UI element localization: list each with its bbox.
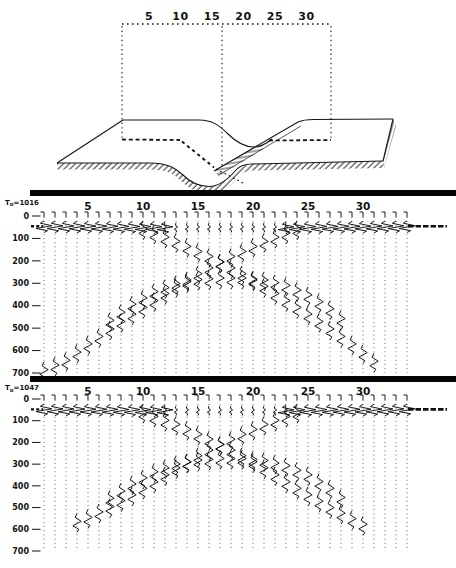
time-axis-label: 600	[12, 346, 29, 355]
wavelet-limb-dipping-right	[293, 299, 301, 318]
trace-top-tick	[382, 395, 386, 400]
trace-top-tick	[129, 395, 133, 400]
wavelet-trough-bottom-arch	[216, 451, 224, 470]
seismic-section-1047: To=1047510152025300100200300400500600700	[0, 382, 456, 568]
wavelet-flat-left	[80, 404, 96, 416]
ruler-label: 15	[204, 10, 220, 23]
interface-dashed-right	[269, 140, 331, 141]
ruler-label: 25	[267, 10, 283, 23]
trace-top-tick	[404, 212, 408, 217]
trace-top-tick	[63, 395, 67, 400]
wavelet-limb-dipping-left	[84, 509, 92, 528]
ruler-label: 10	[172, 10, 188, 23]
trace-top-tick	[96, 395, 100, 400]
trace-top-tick	[151, 212, 155, 217]
trace-top-tick	[371, 395, 375, 400]
wavelet-limb-dipping-right	[183, 238, 191, 257]
wavelet-flat-center	[174, 406, 177, 416]
wavelet-limb-dipping-left	[95, 328, 103, 347]
trace-top-tick	[305, 212, 309, 217]
ruler-label: 20	[235, 10, 251, 23]
trace-top-tick	[349, 395, 353, 400]
trace-top-tick	[206, 395, 210, 400]
trace-top-tick	[52, 395, 56, 400]
trace-top-tick	[327, 395, 331, 400]
trace-top-tick	[129, 212, 133, 217]
wavelet-flat-left	[47, 221, 63, 233]
wavelet-flat-left	[80, 221, 96, 233]
trace-top-tick	[338, 395, 342, 400]
trace-top-tick	[250, 212, 254, 217]
geophone-number-label: 30	[356, 200, 371, 212]
trace-top-tick	[338, 212, 342, 217]
wavelet-flat-left	[69, 404, 85, 416]
ruler-labels: 51015202530	[145, 10, 315, 23]
trace-top-tick	[52, 212, 56, 217]
trace-top-tick	[294, 395, 298, 400]
wavelet-flat-center	[218, 223, 221, 233]
trace-top-tick	[85, 212, 89, 217]
trace-top-tick	[173, 395, 177, 400]
wavelet-flat-center	[229, 406, 232, 416]
wavelet-flat-center	[251, 223, 254, 233]
wavelet-limb-dipping-right	[359, 516, 367, 535]
back-edge	[123, 120, 272, 147]
trace-top-tick	[107, 395, 111, 400]
time-axis-label: 500	[12, 503, 29, 512]
time-axis-label: 0	[23, 395, 29, 404]
wavelet-flat-center	[196, 406, 199, 416]
front-edge-hatch-band	[57, 161, 384, 190]
trace-top-tick	[184, 212, 188, 217]
trace-top-tick	[272, 395, 276, 400]
trace-top-tick	[349, 212, 353, 217]
wavelet-group	[31, 221, 447, 376]
trace-top-tick	[63, 212, 67, 217]
seismic-section-1016: To=1016510152025300100200300400500600700	[0, 196, 456, 376]
model-diagram: 51015202530	[0, 0, 456, 190]
time-axis-label: 500	[12, 324, 29, 333]
time-axis-label: 300	[12, 279, 29, 288]
trace-top-tick	[74, 395, 78, 400]
time-axis-label: 100	[12, 234, 29, 243]
trace-top-tick	[162, 212, 166, 217]
trace-group	[41, 212, 408, 373]
geophone-number-label: 10	[136, 200, 151, 212]
trace-top-tick	[41, 395, 45, 400]
time-axis-label: 400	[12, 482, 29, 491]
wavelet-limb-dipping-right	[326, 500, 334, 519]
time-axis-label: 200	[12, 438, 29, 447]
right-side-hatch-band	[383, 119, 396, 168]
trace-top-tick	[360, 212, 364, 217]
geophone-number-label: 20	[246, 200, 261, 212]
trace-top-tick	[118, 395, 122, 400]
wavelet-flat-center	[229, 223, 232, 233]
panel-title: To=1016	[5, 199, 39, 208]
wavelet-group	[31, 404, 447, 536]
trace-top-tick	[173, 212, 177, 217]
wavelet-trough-bottom-arch	[326, 480, 334, 499]
wavelet-limb-dipping-right	[282, 293, 290, 312]
block-outline	[57, 119, 393, 187]
trace-top-tick	[316, 395, 320, 400]
wavelet-flat-left	[102, 221, 118, 233]
wavelet-flat-center	[174, 223, 177, 233]
trace-top-tick	[316, 212, 320, 217]
trace-top-tick	[261, 395, 265, 400]
wavelet-limb-dipping-right	[315, 314, 323, 333]
trace-top-tick	[239, 395, 243, 400]
wavelet-limb-dipping-right	[293, 480, 301, 499]
trace-top-tick	[239, 212, 243, 217]
time-axis-label: 600	[12, 525, 29, 534]
wavelet-trough-bottom-arch	[304, 287, 312, 306]
trace-top-tick	[151, 395, 155, 400]
time-axis-label: 700	[12, 547, 29, 556]
panel-title: To=1047	[5, 384, 39, 393]
trace-top-tick	[283, 395, 287, 400]
wavelet-flat-center	[218, 406, 221, 416]
trace-top-tick	[294, 212, 298, 217]
wavelet-flat-center	[185, 406, 188, 416]
ruler-label: 30	[298, 10, 314, 23]
trace-top-tick	[217, 395, 221, 400]
wavelet-limb-dipping-right	[337, 328, 345, 347]
trace-top-tick	[217, 212, 221, 217]
